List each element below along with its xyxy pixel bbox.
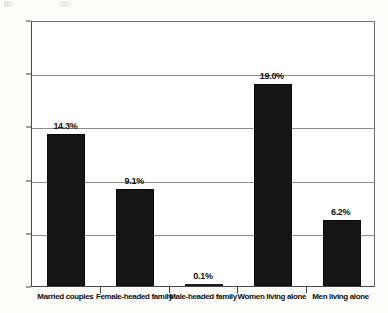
bar-value-label: 0.1% [193,271,212,281]
bar [116,189,154,286]
x-axis-tick-mark [169,287,170,293]
x-axis-tick-mark [237,287,238,293]
plot-area [31,21,375,287]
bar-value-label: 19.0% [260,71,284,81]
x-axis-category-label: Women living alone [237,292,306,301]
x-axis-category-label: Men living alone [312,292,369,301]
bar [185,284,223,286]
x-axis-tick-mark [100,287,101,293]
x-axis-category-label: Married couples [37,292,93,301]
bar [254,84,292,286]
bar-chart: 0%5%10%15%20%25% 14.3%9.1%0.1%19.0%6.2% … [0,0,388,313]
bar [47,134,85,286]
x-axis-tick-mark [306,287,307,293]
bar-value-label: 6.2% [331,207,350,217]
x-axis-category-label: Female-headed family [96,292,173,301]
x-axis-category-label: Male-headed family [169,292,237,301]
bar-value-label: 9.1% [125,176,144,186]
bar [323,220,361,286]
gridline [32,128,374,129]
scan-artifact [4,1,74,7]
gridline [32,75,374,76]
bar-value-label: 14.3% [53,121,77,131]
